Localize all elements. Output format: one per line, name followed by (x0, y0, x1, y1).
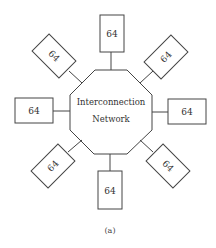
node-top: 64 (100, 15, 124, 52)
node-bottom: 64 (98, 171, 122, 209)
connector-top-left (69, 71, 82, 83)
node-bottom-right: 64 (146, 144, 190, 188)
node-right: 64 (168, 99, 206, 124)
interconnection-diagram: 64 64 64 64 64 64 64 64 Interconnection … (0, 0, 216, 248)
connector-top-right (140, 71, 153, 83)
node-bottom-left: 64 (31, 144, 75, 188)
node-right-label: 64 (181, 107, 193, 117)
connector-bottom-left (68, 140, 82, 152)
node-top-right: 64 (144, 35, 188, 79)
node-top-label: 64 (106, 29, 118, 39)
center-label-line1: Interconnection (77, 97, 146, 107)
center-label-line2: Network (92, 114, 130, 124)
node-left-label: 64 (28, 106, 40, 116)
connector-bottom-right (140, 140, 153, 152)
figure-caption: (a) (104, 226, 115, 235)
node-left: 64 (15, 98, 53, 123)
node-bottom-label: 64 (104, 186, 116, 196)
